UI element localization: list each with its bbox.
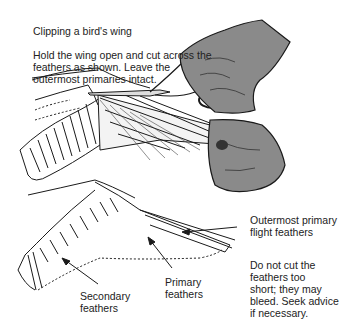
lower-wing-drawing: [18, 180, 235, 290]
figure-instructions: Hold the wing open and cut across the fe…: [33, 49, 213, 85]
label-warning: Do not cut the feathers too short; they …: [250, 259, 339, 319]
wing-clipping-diagram: Clipping a bird's wing Hold the wing ope…: [0, 0, 357, 326]
instruction-block: Clipping a bird's wing Hold the wing ope…: [33, 13, 213, 97]
label-secondary-feathers: Secondary feathers: [80, 290, 130, 314]
label-primary-feathers: Primary feathers: [165, 276, 203, 300]
figure-title: Clipping a bird's wing: [33, 25, 213, 37]
label-outermost-primary: Outermost primary flight feathers: [250, 214, 337, 238]
